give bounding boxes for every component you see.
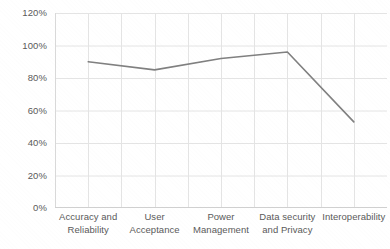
y-axis-tick-label: 80% <box>28 73 47 83</box>
line-chart: 0%20%40%60%80%100%120% Accuracy andRelia… <box>0 0 390 249</box>
y-axis: 0%20%40%60%80%100%120% <box>0 0 52 249</box>
x-axis-label-line: Power <box>188 211 254 224</box>
x-axis-label-line: Management <box>188 224 254 237</box>
x-axis-category-label: Interoperability <box>321 211 387 224</box>
y-axis-tick-label: 100% <box>22 41 47 51</box>
y-axis-tick-label: 20% <box>28 171 47 181</box>
x-axis-category-label: Data securityand Privacy <box>254 211 320 236</box>
x-axis-label-line: Reliability <box>55 224 121 237</box>
plot-area <box>55 13 387 208</box>
y-axis-tick-label: 120% <box>22 8 47 18</box>
x-axis: Accuracy andReliabilityUser AcceptancePo… <box>55 211 387 249</box>
x-axis-label-line: Data security <box>254 211 320 224</box>
y-axis-tick-label: 0% <box>33 203 47 213</box>
x-axis-label-line: User Acceptance <box>121 211 187 236</box>
x-axis-category-label: User Acceptance <box>121 211 187 236</box>
x-axis-label-line: and Privacy <box>254 224 320 237</box>
y-axis-tick-label: 40% <box>28 138 47 148</box>
series-line-svg <box>55 13 387 208</box>
x-axis-category-label: PowerManagement <box>188 211 254 236</box>
x-axis-label-line: Interoperability <box>321 211 387 224</box>
x-axis-label-line: Accuracy and <box>55 211 121 224</box>
x-axis-category-label: Accuracy andReliability <box>55 211 121 236</box>
y-axis-tick-label: 60% <box>28 106 47 116</box>
